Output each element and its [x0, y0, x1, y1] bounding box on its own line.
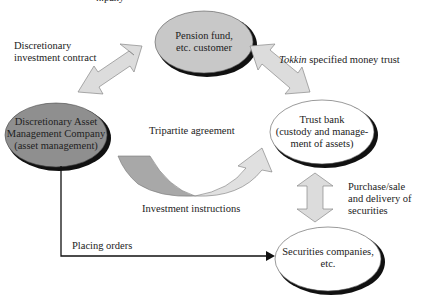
trust-bank-line3: ment of assets): [270, 138, 374, 150]
investment-instructions-label: Investment instructions: [142, 203, 240, 215]
discretionary-contract-label: Discretionary investment contract: [14, 40, 97, 64]
purchase-line3: securities: [348, 205, 412, 217]
double-arrow-vertical: [297, 173, 333, 222]
pension-line2: etc. customer: [164, 42, 244, 54]
tripartite-agreement-label: Tripartite agreement: [149, 125, 235, 137]
asset-management-label: Discretionary Asset Management Company (…: [4, 116, 108, 152]
tokkin-rest: specified money trust: [307, 54, 400, 65]
discretionary-line2: investment contract: [14, 52, 97, 64]
purchase-sale-label: Purchase/sale and delivery of securities: [348, 181, 412, 217]
securities-label: Securities companies, etc.: [274, 246, 382, 270]
trust-bank-line1: Trust bank: [270, 114, 374, 126]
securities-line2: etc.: [274, 258, 382, 270]
asset-mgmt-line3: (asset management): [4, 140, 108, 152]
trust-bank-label: Trust bank (custody and manage- ment of …: [270, 114, 374, 150]
header-fragment: ...pany: [96, 0, 124, 4]
trust-bank-line2: (custody and manage-: [270, 126, 374, 138]
tokkin-italic: Tokkin: [279, 54, 307, 65]
curved-arrow-tripartite: [118, 148, 272, 196]
discretionary-line1: Discretionary: [14, 40, 97, 52]
purchase-line2: and delivery of: [348, 193, 412, 205]
asset-mgmt-line1: Discretionary Asset: [4, 116, 108, 128]
pension-fund-label: Pension fund, etc. customer: [164, 30, 244, 54]
purchase-line1: Purchase/sale: [348, 181, 412, 193]
securities-line1: Securities companies,: [274, 246, 382, 258]
asset-mgmt-line2: Management Company: [4, 128, 108, 140]
pension-line1: Pension fund,: [164, 30, 244, 42]
double-arrow-right: [250, 44, 310, 94]
placing-orders-label: Placing orders: [72, 240, 132, 252]
tokkin-label: Tokkin specified money trust: [279, 54, 400, 66]
